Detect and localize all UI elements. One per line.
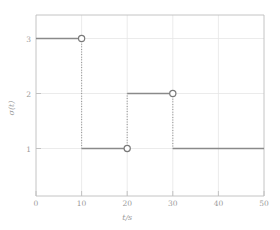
plot-frame xyxy=(36,15,264,196)
x-axis-tick-labels: 0 10 20 30 40 50 xyxy=(34,199,269,208)
y-axis-label: σ(t) xyxy=(7,101,16,116)
y-tick-label: 1 xyxy=(26,145,31,154)
step-function-plot: 0 10 20 30 40 50 3 2 1 t/s σ(t) xyxy=(0,0,280,230)
x-tick-label: 10 xyxy=(77,199,87,208)
grid-vertical xyxy=(82,15,219,196)
x-axis-label: t/s xyxy=(122,213,132,222)
x-tick-label: 40 xyxy=(214,199,224,208)
data-point-marker xyxy=(170,90,176,96)
data-point-marker xyxy=(124,145,130,151)
x-tick-label: 50 xyxy=(259,199,269,208)
x-tick-label: 0 xyxy=(34,199,39,208)
data-point-marker xyxy=(79,35,85,41)
x-axis-ticks xyxy=(36,191,264,196)
y-tick-label: 3 xyxy=(26,35,31,44)
chart-figure: 0 10 20 30 40 50 3 2 1 t/s σ(t) xyxy=(0,0,280,230)
x-tick-label: 30 xyxy=(168,199,178,208)
y-tick-label: 2 xyxy=(26,90,31,99)
x-tick-label: 20 xyxy=(122,199,132,208)
y-axis-ticks xyxy=(36,39,41,149)
y-axis-tick-labels: 3 2 1 xyxy=(26,35,31,154)
